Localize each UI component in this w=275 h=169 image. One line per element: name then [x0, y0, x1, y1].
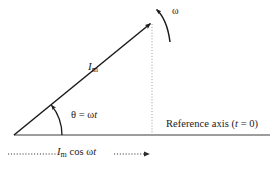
projection-time-symbol: t [93, 146, 96, 157]
angular-velocity-curved-arrow [157, 10, 171, 43]
diagram-canvas [0, 0, 275, 169]
angle-equation-text: θ = ω [71, 109, 94, 120]
projection-cos-text: cos ω [67, 146, 93, 157]
projection-label: Im cos ωt [57, 147, 96, 159]
phasor-magnitude-subscript: m [92, 65, 98, 74]
reference-axis-label: Reference axis (t = 0) [166, 119, 258, 130]
phasor-magnitude-label: Im [88, 61, 98, 74]
angular-velocity-label: ω [172, 6, 179, 16]
reference-axis-text-pre: Reference axis ( [166, 118, 235, 129]
reference-axis-text-post: = 0) [238, 118, 258, 129]
phasor-diagram: Im θ = ωt ω Reference axis (t = 0) Im co… [0, 0, 275, 169]
angle-equation-time-symbol: t [94, 109, 97, 120]
angle-equation-label: θ = ωt [71, 110, 97, 121]
angle-arc [51, 105, 62, 135]
